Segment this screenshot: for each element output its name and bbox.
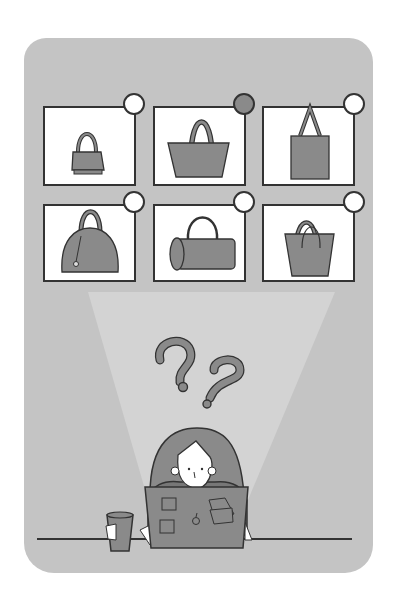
select-indicator-6[interactable] <box>343 191 365 213</box>
barrel-bag-icon <box>170 218 235 271</box>
select-indicator-3[interactable] <box>343 93 365 115</box>
select-indicator-2[interactable] <box>233 93 255 115</box>
bucket-bag-icon <box>285 223 334 277</box>
tote-bag-tall-icon <box>291 108 329 179</box>
scene <box>0 0 394 607</box>
select-indicator-5[interactable] <box>233 191 255 213</box>
dome-bag-icon <box>62 212 118 272</box>
select-indicator-1[interactable] <box>123 93 145 115</box>
laptop <box>145 487 248 548</box>
tote-bag-wide-icon <box>168 122 229 177</box>
cup <box>106 512 133 551</box>
shoulder-bag-icon <box>72 134 104 174</box>
select-indicator-4[interactable] <box>123 191 145 213</box>
